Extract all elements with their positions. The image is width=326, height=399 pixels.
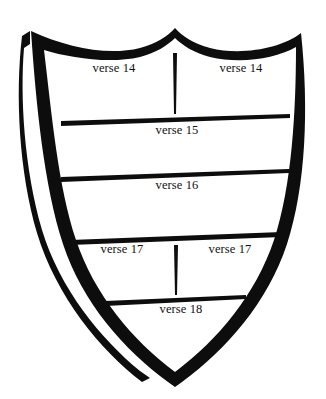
verse-label-15: verse 15 [156,124,199,137]
verse-label-17-right: verse 17 [209,243,252,256]
shield-outline-path [31,28,305,387]
vertical-divider-top [173,53,177,114]
verse-label-17-left: verse 17 [101,243,144,256]
verse-label-14-left: verse 14 [93,62,136,75]
verse-label-18: verse 18 [160,303,203,316]
verse-label-14-right: verse 14 [220,62,263,75]
figure-canvas: verse 14 verse 14 verse 15 verse 16 vers… [0,0,326,399]
vertical-divider-bottom [174,245,178,295]
shield-diagram [0,0,326,399]
verse-label-16: verse 16 [156,179,199,192]
